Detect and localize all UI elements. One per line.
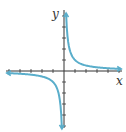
x-axis-label: x xyxy=(116,75,123,87)
y-axis xyxy=(62,10,66,128)
curve-positive-branch xyxy=(66,13,121,69)
hyperbola-plot xyxy=(0,0,126,132)
y-axis-label: y xyxy=(52,8,59,20)
curve-negative-branch xyxy=(7,73,62,129)
